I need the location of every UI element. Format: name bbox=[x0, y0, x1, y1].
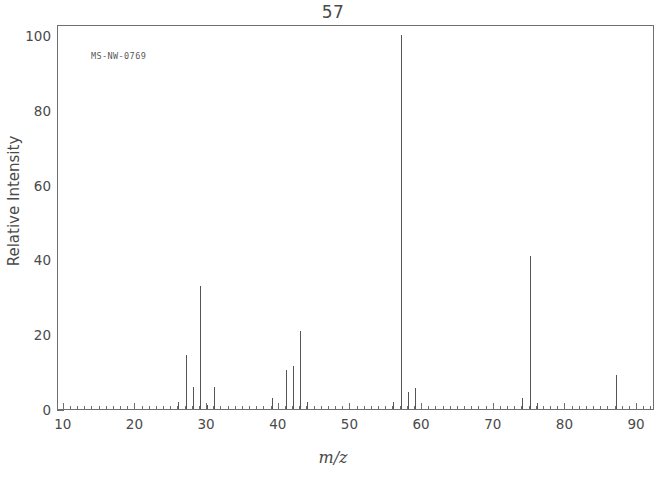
x-axis-tick bbox=[206, 403, 207, 410]
spectrum-peak bbox=[408, 392, 409, 409]
x-axis-minor-tick bbox=[629, 406, 630, 410]
x-axis-tick-label: 60 bbox=[412, 416, 429, 432]
x-axis-minor-tick bbox=[120, 406, 121, 410]
x-axis-minor-tick bbox=[242, 406, 243, 410]
x-axis-minor-tick bbox=[500, 406, 501, 410]
x-axis-minor-tick bbox=[428, 406, 429, 410]
x-axis-tick bbox=[564, 403, 565, 410]
x-axis-tick-label: 30 bbox=[197, 416, 214, 432]
x-axis-minor-tick bbox=[514, 406, 515, 410]
spectrum-peak bbox=[207, 405, 208, 409]
spectrum-peak bbox=[272, 398, 273, 409]
x-axis-tick-label: 10 bbox=[54, 416, 71, 432]
x-axis-minor-tick bbox=[142, 406, 143, 410]
x-axis-minor-tick bbox=[622, 406, 623, 410]
x-axis-minor-tick bbox=[607, 406, 608, 410]
x-axis-minor-tick bbox=[263, 406, 264, 410]
x-axis-minor-tick bbox=[299, 406, 300, 410]
x-axis-minor-tick bbox=[643, 406, 644, 410]
x-axis-minor-tick bbox=[593, 406, 594, 410]
x-axis-minor-tick bbox=[185, 406, 186, 410]
x-axis-tick bbox=[421, 403, 422, 410]
x-axis-minor-tick bbox=[572, 406, 573, 410]
spectrum-peak bbox=[537, 403, 538, 409]
sample-id-annotation: MS-NW-0769 bbox=[91, 51, 146, 61]
x-axis-minor-tick bbox=[306, 406, 307, 410]
x-axis-minor-tick bbox=[471, 406, 472, 410]
y-axis-tick-label: 40 bbox=[11, 252, 51, 268]
spectrum-peak bbox=[616, 375, 617, 409]
spectrum-peak bbox=[193, 387, 194, 409]
x-axis-tick bbox=[349, 403, 350, 410]
y-axis-tick-label: 0 bbox=[11, 402, 51, 418]
x-axis-minor-tick bbox=[256, 406, 257, 410]
x-axis-minor-tick bbox=[213, 406, 214, 410]
x-axis-minor-tick bbox=[486, 406, 487, 410]
x-axis-minor-tick bbox=[600, 406, 601, 410]
x-axis-minor-tick bbox=[335, 406, 336, 410]
x-axis-minor-tick bbox=[235, 406, 236, 410]
spectrum-peak bbox=[293, 366, 294, 409]
x-axis-minor-tick bbox=[314, 406, 315, 410]
x-axis-tick-label: 80 bbox=[556, 416, 573, 432]
x-axis-minor-tick bbox=[400, 406, 401, 410]
y-axis-tick-label: 80 bbox=[11, 103, 51, 119]
plot-area: MS-NW-0769 bbox=[57, 25, 654, 410]
x-axis-minor-tick bbox=[557, 406, 558, 410]
x-axis-minor-tick bbox=[170, 406, 171, 410]
x-axis-minor-tick bbox=[464, 406, 465, 410]
spectrum-peak bbox=[522, 398, 523, 409]
x-axis-tick-label: 70 bbox=[484, 416, 501, 432]
x-axis-minor-tick bbox=[177, 406, 178, 410]
x-axis-tick-label: 40 bbox=[269, 416, 286, 432]
x-axis-minor-tick bbox=[127, 406, 128, 410]
x-axis-minor-tick bbox=[342, 406, 343, 410]
spectrum-peak bbox=[178, 402, 179, 409]
x-axis-minor-tick bbox=[321, 406, 322, 410]
page-title: 57 bbox=[0, 2, 666, 22]
x-axis-minor-tick bbox=[357, 406, 358, 410]
x-axis-minor-tick bbox=[91, 406, 92, 410]
spectrum-peak bbox=[214, 387, 215, 409]
spectrum-peaks bbox=[58, 26, 653, 409]
x-axis-minor-tick bbox=[579, 406, 580, 410]
x-axis-minor-tick bbox=[615, 406, 616, 410]
x-axis-minor-tick bbox=[407, 406, 408, 410]
x-axis-minor-tick bbox=[536, 406, 537, 410]
x-axis-minor-tick bbox=[392, 406, 393, 410]
x-axis-minor-tick bbox=[529, 406, 530, 410]
x-axis-minor-tick bbox=[507, 406, 508, 410]
x-axis-tick bbox=[63, 403, 64, 410]
x-axis-minor-tick bbox=[285, 406, 286, 410]
spectrum-peak bbox=[286, 370, 287, 409]
x-axis-minor-tick bbox=[99, 406, 100, 410]
x-axis-minor-tick bbox=[364, 406, 365, 410]
x-axis-minor-tick bbox=[156, 406, 157, 410]
x-axis-minor-tick bbox=[478, 406, 479, 410]
spectrum-peak bbox=[415, 388, 416, 409]
x-axis-minor-tick bbox=[199, 406, 200, 410]
x-axis-tick-label: 20 bbox=[126, 416, 143, 432]
x-axis-minor-tick bbox=[113, 406, 114, 410]
x-axis-minor-tick bbox=[543, 406, 544, 410]
x-axis-label: m/z bbox=[0, 448, 666, 467]
spectrum-peak bbox=[300, 331, 301, 410]
x-axis-minor-tick bbox=[450, 406, 451, 410]
mass-spectrum-figure: 57 Relative Intensity 020406080100 MS-NW… bbox=[0, 0, 666, 478]
x-axis-tick bbox=[493, 403, 494, 410]
x-axis-tick bbox=[134, 403, 135, 410]
x-axis-minor-tick bbox=[435, 406, 436, 410]
x-axis-minor-tick bbox=[650, 406, 651, 410]
x-axis-minor-tick bbox=[220, 406, 221, 410]
x-axis-minor-tick bbox=[192, 406, 193, 410]
spectrum-peak bbox=[393, 402, 394, 409]
x-axis-minor-tick bbox=[414, 406, 415, 410]
x-axis-tick-label: 50 bbox=[341, 416, 358, 432]
x-axis-minor-tick bbox=[106, 406, 107, 410]
spectrum-peak bbox=[401, 35, 402, 409]
x-axis-minor-tick bbox=[586, 406, 587, 410]
y-axis-tick bbox=[57, 410, 64, 411]
spectrum-peak bbox=[186, 355, 187, 409]
x-axis-minor-tick bbox=[77, 406, 78, 410]
y-axis-tick-label: 20 bbox=[11, 327, 51, 343]
